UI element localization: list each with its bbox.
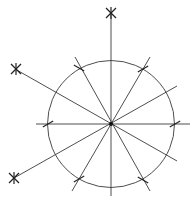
tick-upper-left: [74, 65, 84, 71]
line-minus-30-degrees: [15, 69, 177, 161]
center-point: [109, 122, 113, 126]
upper-left-asterisk: [11, 63, 21, 75]
lower-left-asterisk: [9, 172, 19, 184]
top-asterisk: [106, 7, 116, 19]
diameter-lines: [14, 12, 190, 196]
line-30-degrees: [14, 86, 177, 178]
circle-division-diagram: [0, 0, 196, 205]
